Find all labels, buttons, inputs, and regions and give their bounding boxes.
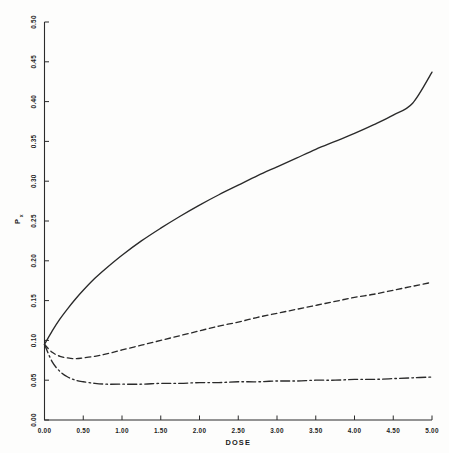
x-tick-label: 1.50	[154, 427, 168, 434]
y-axis-title-subscript: x	[18, 214, 24, 217]
y-axis-title-base: P	[13, 218, 22, 224]
y-tick-label: 0.05	[30, 373, 37, 387]
y-tick-label: 0.35	[30, 134, 37, 148]
series-dashed-curve	[45, 282, 433, 358]
x-axis-ticks: 0.000.501.001.502.002.503.003.504.004.50…	[38, 416, 439, 434]
x-tick-label: 2.50	[231, 427, 245, 434]
y-tick-label: 0.00	[30, 413, 37, 427]
y-tick-label: 0.25	[30, 214, 37, 228]
x-tick-label: 5.00	[425, 427, 439, 434]
axis-titles: DOSEPx	[13, 214, 251, 447]
y-tick-label: 0.50	[30, 15, 37, 29]
y-tick-label: 0.30	[30, 174, 37, 188]
x-axis-title: DOSE	[226, 438, 251, 447]
y-axis-title: Px	[13, 214, 24, 224]
chart-series	[45, 72, 433, 384]
x-tick-label: 0.50	[76, 427, 90, 434]
y-tick-label: 0.20	[30, 254, 37, 268]
series-solid-curve	[45, 72, 433, 344]
x-tick-label: 2.00	[193, 427, 207, 434]
x-tick-label: 4.00	[348, 427, 362, 434]
y-tick-label: 0.40	[30, 95, 37, 109]
y-tick-label: 0.45	[30, 55, 37, 69]
axis-frame	[45, 22, 433, 420]
chart-axes	[45, 22, 433, 420]
series-dashdot-curve	[45, 344, 433, 384]
x-tick-label: 1.00	[115, 427, 129, 434]
chart-figure: 0.000.501.001.502.002.503.003.504.004.50…	[0, 0, 449, 453]
x-tick-label: 0.00	[38, 427, 52, 434]
x-tick-label: 3.00	[270, 427, 284, 434]
x-tick-label: 4.50	[386, 427, 400, 434]
y-tick-label: 0.15	[30, 294, 37, 308]
line-chart: 0.000.501.001.502.002.503.003.504.004.50…	[0, 0, 449, 453]
x-tick-label: 3.50	[309, 427, 323, 434]
y-tick-label: 0.10	[30, 333, 37, 347]
y-axis-ticks: 0.000.050.100.150.200.250.300.350.400.45…	[30, 15, 50, 427]
